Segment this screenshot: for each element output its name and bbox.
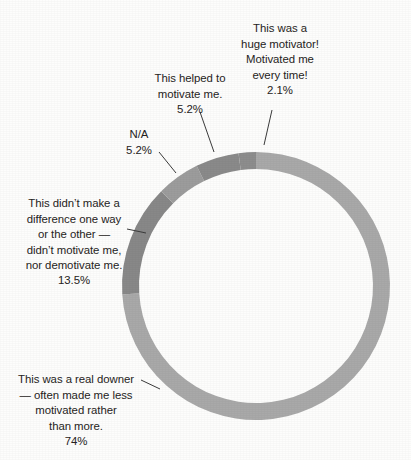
label-huge-motivator-text: This was a huge motivator! Motivated me … bbox=[241, 22, 319, 80]
donut-slices bbox=[122, 152, 390, 420]
label-na: N/A 5.2% bbox=[99, 112, 179, 174]
label-no-difference: This didn’t make a difference one way or… bbox=[4, 181, 144, 304]
label-downer-pct: 74% bbox=[0, 434, 152, 449]
label-helped-text: This helped to motivate me. bbox=[155, 72, 226, 99]
donut-chart: This was a huge motivator! Motivated me … bbox=[0, 0, 411, 460]
slice-helped[interactable] bbox=[197, 153, 241, 181]
label-na-pct: 5.2% bbox=[99, 143, 179, 158]
slice-huge-motivator[interactable] bbox=[239, 152, 256, 170]
label-no-difference-pct: 13.5% bbox=[4, 273, 144, 288]
label-downer-text: This was a real downer — often made me l… bbox=[18, 373, 134, 431]
label-huge-motivator-pct: 2.1% bbox=[225, 83, 335, 98]
label-downer: This was a real downer — often made me l… bbox=[0, 357, 152, 460]
label-huge-motivator: This was a huge motivator! Motivated me … bbox=[225, 6, 335, 114]
label-no-difference-text: This didn’t make a difference one way or… bbox=[26, 197, 123, 271]
label-na-text: N/A bbox=[130, 128, 149, 140]
leader-line-huge-motivator bbox=[264, 110, 272, 145]
